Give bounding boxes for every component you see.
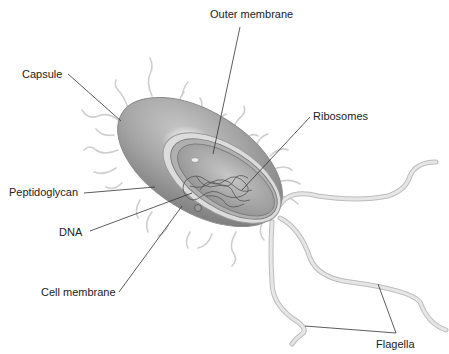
label-peptidoglycan: Peptidoglycan — [9, 186, 78, 199]
label-dna: DNA — [59, 226, 82, 239]
flagella-strands — [271, 162, 446, 344]
label-capsule: Capsule — [22, 68, 62, 81]
label-flagella: Flagella — [376, 338, 415, 351]
bacterium-diagram — [0, 0, 449, 354]
label-cell-membrane: Cell membrane — [41, 286, 116, 299]
ribosome-granule — [195, 205, 202, 212]
inclusion-body — [191, 158, 199, 163]
label-outer-membrane: Outer membrane — [210, 8, 293, 21]
label-ribosomes: Ribosomes — [313, 110, 368, 123]
